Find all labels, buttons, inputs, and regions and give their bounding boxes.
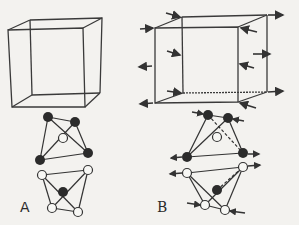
diagram-figure: A B [0,0,299,225]
molecule-b-bottom [0,0,299,225]
panel-label-b: B [157,199,167,215]
panel-label-a: A [20,199,30,215]
